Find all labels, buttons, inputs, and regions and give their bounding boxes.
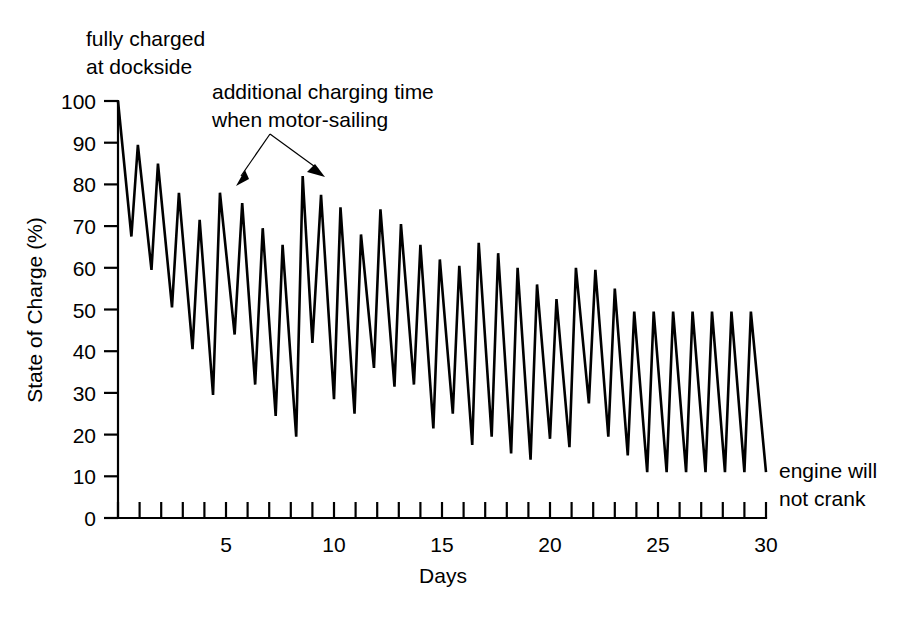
x-tick-label: 5 — [220, 533, 232, 556]
y-tick-label: 100 — [61, 90, 96, 113]
y-tick-label: 80 — [73, 173, 96, 196]
y-axis-title: State of Charge (%) — [23, 217, 46, 403]
y-tick-label: 30 — [73, 382, 96, 405]
y-tick-label: 60 — [73, 257, 96, 280]
engine-crank-line1: engine will — [779, 459, 877, 482]
y-tick-label: 10 — [73, 465, 96, 488]
chart-figure: 0102030405060708090100 51015202530 fully… — [0, 0, 924, 617]
motor-sailing-line1: additional charging time — [212, 80, 434, 103]
x-tick-label: 30 — [754, 533, 777, 556]
y-tick-label: 40 — [73, 340, 96, 363]
x-tick-label: 20 — [538, 533, 561, 556]
x-tick-label: 25 — [646, 533, 669, 556]
y-tick-label: 0 — [84, 507, 96, 530]
motor-sailing-line2: when motor-sailing — [211, 108, 388, 131]
y-tick-label: 50 — [73, 299, 96, 322]
y-tick-label: 20 — [73, 424, 96, 447]
y-tick-label: 90 — [73, 132, 96, 155]
x-tick-label: 15 — [430, 533, 453, 556]
engine-crank-line2: not crank — [779, 487, 866, 510]
fully-charged-line1: fully charged — [86, 27, 205, 50]
y-tick-label: 70 — [73, 215, 96, 238]
x-axis-title: Days — [419, 564, 467, 587]
x-tick-label: 10 — [322, 533, 345, 556]
state-of-charge-chart: 0102030405060708090100 51015202530 fully… — [0, 0, 924, 617]
fully-charged-line2: at dockside — [86, 55, 192, 78]
